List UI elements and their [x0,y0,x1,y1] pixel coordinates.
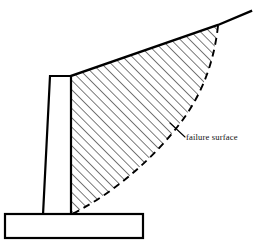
failure-surface-label: failure surface [186,132,238,142]
base-slab [5,214,143,238]
diagram-canvas: failure surface [0,0,255,243]
backfill-hatched-region [60,15,240,225]
wall-stem [43,76,71,215]
figure-retaining-wall-failure-surface: failure surface [0,0,255,243]
